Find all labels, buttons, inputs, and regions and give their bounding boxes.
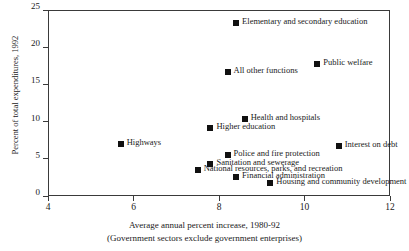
data-point-label: Higher education bbox=[216, 122, 275, 131]
x-tick-mark bbox=[48, 196, 49, 201]
y-tick-mark bbox=[43, 158, 48, 159]
y-tick-label: 0 bbox=[36, 188, 41, 197]
square-marker-icon bbox=[225, 69, 231, 75]
y-tick-label: 25 bbox=[31, 2, 40, 11]
y-tick-label: 5 bbox=[36, 151, 41, 160]
y-tick-mark bbox=[43, 84, 48, 85]
square-marker-icon bbox=[207, 125, 213, 131]
x-tick-label: 8 bbox=[199, 203, 239, 213]
x-tick-label: 10 bbox=[285, 203, 325, 213]
y-tick-label: 10 bbox=[31, 114, 40, 123]
x-tick-label: 12 bbox=[370, 203, 409, 213]
y-tick-label: 15 bbox=[31, 76, 40, 85]
data-point-label: Highways bbox=[127, 138, 161, 147]
x-tick-label: 4 bbox=[28, 203, 68, 213]
x-tick-mark bbox=[133, 196, 134, 201]
data-point-label: Housing and community development bbox=[276, 177, 406, 186]
x-axis-title-line2: (Government sectors exclude government e… bbox=[0, 232, 409, 245]
square-marker-icon bbox=[314, 61, 320, 67]
square-marker-icon bbox=[233, 174, 239, 180]
square-marker-icon bbox=[233, 20, 239, 26]
x-tick-mark bbox=[219, 196, 220, 201]
square-marker-icon bbox=[267, 180, 273, 186]
data-point-label: Interest on debt bbox=[345, 140, 398, 149]
x-tick-mark bbox=[304, 196, 305, 201]
scatter-chart: 0510152025 4681012 Percent of total expe… bbox=[0, 0, 409, 251]
y-tick-label: 20 bbox=[31, 39, 40, 48]
data-point-label: Elementary and secondary education bbox=[242, 17, 367, 26]
y-tick-mark bbox=[43, 121, 48, 122]
square-marker-icon bbox=[118, 141, 124, 147]
data-point-label: All other functions bbox=[234, 66, 298, 75]
data-point-label: Public welfare bbox=[323, 58, 372, 67]
x-tick-label: 6 bbox=[114, 203, 154, 213]
y-tick-mark bbox=[43, 47, 48, 48]
x-tick-mark bbox=[390, 196, 391, 201]
square-marker-icon bbox=[195, 167, 201, 173]
square-marker-icon bbox=[336, 143, 342, 149]
x-axis-title-line1: Average annual percent increase, 1980-92 bbox=[129, 220, 280, 230]
x-axis-title: Average annual percent increase, 1980-92… bbox=[0, 219, 409, 244]
y-tick-mark bbox=[43, 10, 48, 11]
y-axis-title: Percent of total expenditures, 1992 bbox=[10, 0, 20, 190]
